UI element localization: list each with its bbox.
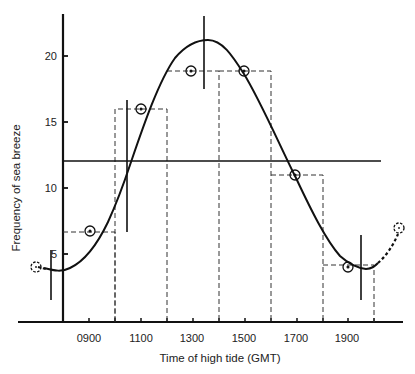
x-tick-labels: 0900 1100 1300 1500 1700 1900 xyxy=(77,332,359,344)
vertical-markers xyxy=(51,16,361,300)
x-axis-title: Time of high tide (GMT) xyxy=(160,352,281,364)
y-tick-15: 15 xyxy=(45,116,57,128)
x-tick-0900: 0900 xyxy=(77,332,101,344)
x-tick-1900: 1900 xyxy=(335,332,359,344)
x-tick-1700: 1700 xyxy=(284,332,308,344)
fitted-curve xyxy=(44,40,378,271)
observed-points xyxy=(85,66,353,272)
x-tick-1300: 1300 xyxy=(180,332,204,344)
sea-breeze-chart: 20 15 10 5 0900 1100 1300 1500 1700 1900… xyxy=(0,0,415,374)
extrapolated-curve-right xyxy=(378,234,398,263)
y-axis-title: Frequency of sea breeze xyxy=(10,124,22,251)
extrapolated-point-dots xyxy=(35,227,400,268)
x-tick-1500: 1500 xyxy=(232,332,256,344)
histogram-bins xyxy=(63,71,374,322)
y-tick-10: 10 xyxy=(45,182,57,194)
y-tick-labels: 20 15 10 5 xyxy=(45,50,57,260)
y-tick-20: 20 xyxy=(45,50,57,62)
x-tick-1100: 1100 xyxy=(129,332,153,344)
